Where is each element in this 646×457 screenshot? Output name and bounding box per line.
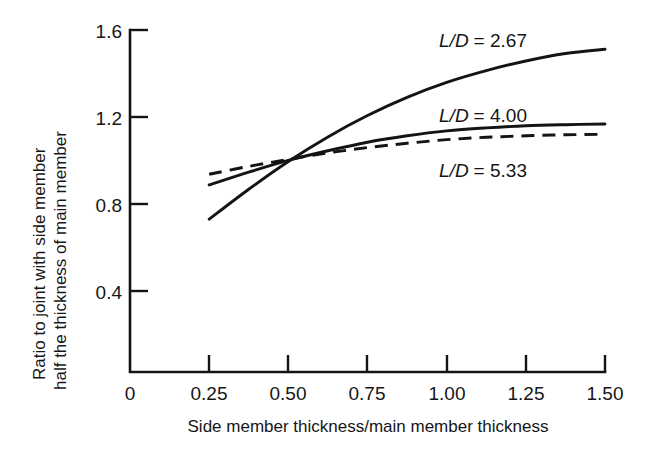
y-tick-labels: 1.6 1.2 0.8 0.4 xyxy=(96,21,123,303)
data-series-group xyxy=(209,49,605,219)
x-tick-labels: 0 0.25 0.50 0.75 1.00 1.25 1.50 xyxy=(125,383,624,404)
x-tick-label-1.50: 1.50 xyxy=(587,383,624,404)
y-axis-title-line2: half the thickness of main member xyxy=(51,131,70,390)
y-tick-label-1.6: 1.6 xyxy=(96,21,122,42)
x-tick-label-0.50: 0.50 xyxy=(270,383,307,404)
axis-spines xyxy=(130,30,605,372)
axis-frame xyxy=(130,30,605,372)
y-tick-label-1.2: 1.2 xyxy=(96,108,122,129)
x-tick-label-1.00: 1.00 xyxy=(429,383,466,404)
x-tick-label-0: 0 xyxy=(125,383,136,404)
chart-canvas: Ratio to joint with side member half the… xyxy=(0,0,646,457)
x-tick-label-1.25: 1.25 xyxy=(508,383,545,404)
series-curve-ld-5-33 xyxy=(209,134,605,174)
x-axis-title: Side member thickness/main member thickn… xyxy=(188,417,549,436)
series-label-ld-5-33: L/D= 5.33 xyxy=(439,160,527,181)
chart-figure: Ratio to joint with side member half the… xyxy=(0,0,646,457)
series-label-ld-4-00: L/D= 4.00 xyxy=(439,105,527,126)
y-tick-label-0.4: 0.4 xyxy=(96,282,123,303)
y-axis-title: Ratio to joint with side member half the… xyxy=(30,131,70,390)
series-labels: L/D= 2.67 L/D= 4.00 L/D= 5.33 xyxy=(439,30,527,181)
x-tick-label-0.75: 0.75 xyxy=(349,383,386,404)
y-tick-label-0.8: 0.8 xyxy=(96,195,122,216)
series-label-ld-2-67: L/D= 2.67 xyxy=(439,30,527,51)
y-axis-title-line1: Ratio to joint with side member xyxy=(30,147,49,380)
x-tick-label-0.25: 0.25 xyxy=(191,383,228,404)
